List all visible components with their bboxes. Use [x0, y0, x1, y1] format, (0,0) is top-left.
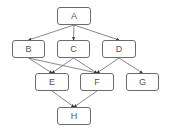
- node-d-label: D: [116, 44, 123, 54]
- node-f-label: F: [94, 77, 100, 87]
- node-h: H: [57, 107, 91, 125]
- edge-f-h: [74, 91, 97, 107]
- edge-a-d: [74, 25, 119, 40]
- node-a: A: [57, 7, 91, 25]
- edge-a-c: [74, 25, 75, 40]
- node-b: B: [12, 40, 45, 58]
- node-a-label: A: [71, 11, 77, 21]
- node-g-label: G: [139, 77, 146, 87]
- node-g: G: [126, 73, 159, 91]
- node-e: E: [35, 73, 69, 91]
- node-h-label: H: [71, 111, 78, 121]
- node-e-label: E: [49, 77, 55, 87]
- node-b-label: B: [25, 44, 31, 54]
- edge-e-h: [52, 91, 74, 107]
- edge-a-b: [29, 25, 75, 40]
- edge-c-e: [52, 58, 74, 73]
- node-c: C: [57, 40, 90, 58]
- node-c-label: C: [70, 44, 77, 54]
- edge-d-f: [97, 58, 119, 73]
- node-f: F: [80, 73, 114, 91]
- node-d: D: [102, 40, 136, 58]
- edge-d-g: [119, 58, 143, 73]
- dag-diagram: A B C D E F G H: [0, 0, 170, 135]
